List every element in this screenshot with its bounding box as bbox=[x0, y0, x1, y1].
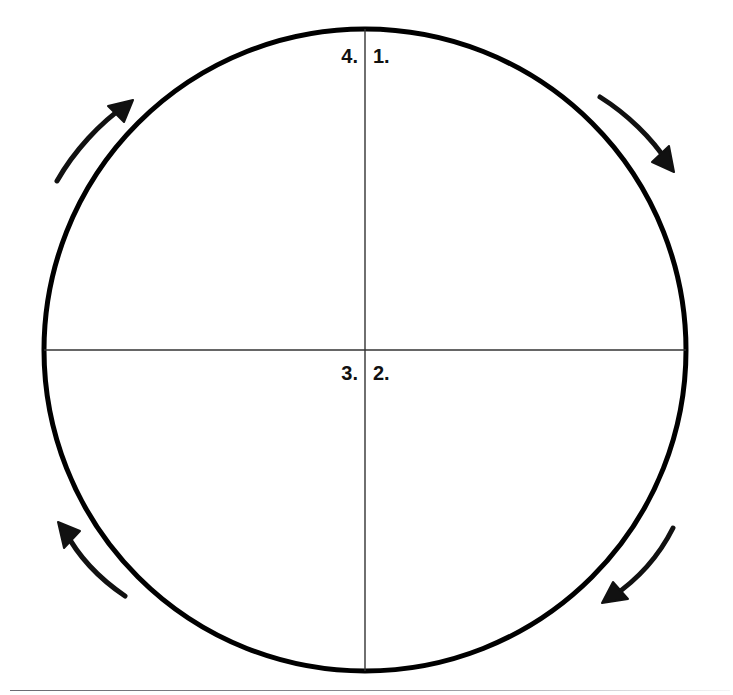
quadrant-label-4: 4. bbox=[332, 46, 358, 66]
diagram-canvas: 4. 1. 3. 2. bbox=[0, 0, 733, 695]
quadrant-label-3: 3. bbox=[332, 363, 358, 383]
quadrant-label-2: 2. bbox=[373, 363, 399, 383]
arrow-top-right-icon bbox=[600, 97, 674, 172]
arrow-bottom-right-icon bbox=[602, 528, 673, 603]
footer-divider bbox=[10, 690, 730, 691]
quadrant-cycle-diagram bbox=[0, 0, 733, 695]
arrow-bottom-left-icon bbox=[58, 522, 125, 596]
quadrant-label-1: 1. bbox=[373, 46, 399, 66]
